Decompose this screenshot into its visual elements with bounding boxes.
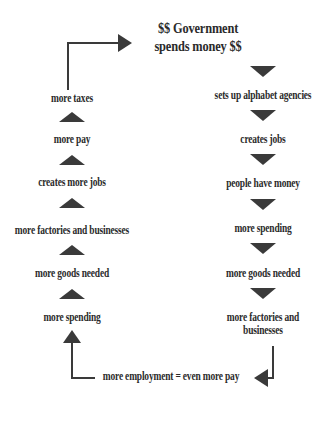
arrow-factories-to-footer-bend <box>268 377 274 379</box>
footer-more-employment-even-more-pay: more employment = even more pay <box>101 370 240 383</box>
arrow-up-left-1-icon <box>59 112 85 122</box>
node-left-more-goods-needed: more goods needed <box>23 267 121 280</box>
arrow-factories-to-footer-stem <box>272 346 274 379</box>
arrow-up-left-3-icon <box>59 198 85 208</box>
node-right-more-factories-line-1: more factories and <box>214 311 312 324</box>
arrow-down-right-6-icon <box>250 288 276 299</box>
node-right-people-have-money: people have money <box>206 177 321 190</box>
node-right-more-factories-and-businesses: more factories and businesses <box>214 311 312 337</box>
page-title-line-1: $$ Government <box>134 19 262 37</box>
node-left-more-pay: more pay <box>23 133 121 146</box>
arrow-down-right-2-icon <box>250 110 276 121</box>
arrow-down-right-3-icon <box>250 154 276 165</box>
arrow-factories-to-footer-head <box>254 369 268 387</box>
node-left-more-spending: more spending <box>23 311 121 324</box>
arrow-more-taxes-to-government-bend <box>67 42 119 44</box>
page-title-line-2: spends money $$ <box>134 37 262 55</box>
arrow-down-right-1-icon <box>250 66 276 77</box>
node-right-sets-up-alphabet-agencies: sets up alphabet agencies <box>193 89 332 102</box>
arrow-up-left-4-icon <box>59 245 85 255</box>
node-left-creates-more-jobs: creates more jobs <box>23 176 121 189</box>
node-right-more-goods-needed: more goods needed <box>206 267 321 280</box>
page-title: $$ Government spends money $$ <box>134 19 262 55</box>
node-right-more-factories-line-2: businesses <box>214 324 312 337</box>
arrow-up-left-2-icon <box>59 155 85 165</box>
arrow-footer-to-more-spending-stem <box>71 341 73 379</box>
node-left-more-taxes: more taxes <box>23 92 121 105</box>
arrow-footer-to-more-spending-bend <box>71 377 95 379</box>
node-left-more-factories-and-businesses: more factories and businesses <box>15 224 130 237</box>
arrow-more-taxes-to-government-head <box>118 34 132 52</box>
arrow-up-left-5-icon <box>59 289 85 299</box>
arrow-down-right-5-icon <box>250 243 276 254</box>
node-right-creates-jobs: creates jobs <box>206 133 321 146</box>
arrow-down-right-4-icon <box>250 199 276 210</box>
node-right-more-spending: more spending <box>206 222 321 235</box>
flowchart-canvas: $$ Government spends money $$ more taxes… <box>0 0 336 425</box>
arrow-more-taxes-to-government-stem <box>67 42 69 90</box>
